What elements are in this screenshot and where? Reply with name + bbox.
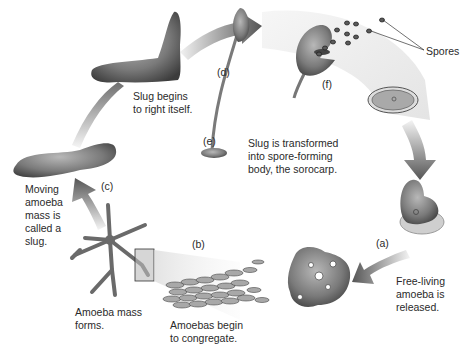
stage-tag-e: (e) bbox=[203, 135, 216, 147]
caption-sorocarp: Slug is transformed into spore-forming b… bbox=[248, 137, 338, 176]
spore-cyst bbox=[368, 87, 418, 113]
slug-righting-shape bbox=[91, 12, 181, 83]
zoom-inset-box bbox=[135, 249, 154, 281]
slug-shape bbox=[13, 143, 116, 177]
arrow-c-to-d bbox=[72, 82, 124, 148]
caption-amoeba-mass: Amoeba mass forms. bbox=[75, 306, 142, 332]
stage-tag-c: (c) bbox=[101, 180, 113, 192]
caption-slug: Moving amoeba mass is called a slug. bbox=[25, 183, 63, 248]
arrow-d-to-e bbox=[180, 12, 262, 60]
stage-tag-b: (b) bbox=[192, 238, 205, 250]
arrow-f-to-a bbox=[402, 120, 436, 180]
amoeba-emerging bbox=[400, 180, 444, 234]
stage-tag-f: (f) bbox=[322, 78, 332, 90]
stage-tag-a: (a) bbox=[376, 237, 389, 249]
slime-mold-life-cycle-diagram: (d) (e) (f) (c) (b) (a) Slug begins to r… bbox=[0, 0, 469, 350]
caption-slug-rights-itself: Slug begins to right itself. bbox=[133, 90, 193, 116]
free-living-amoeba bbox=[288, 247, 350, 307]
spores-callout-label: Spores bbox=[426, 45, 459, 58]
caption-free-living: Free-living amoeba is released. bbox=[396, 275, 445, 314]
stage-tag-d: (d) bbox=[217, 66, 230, 78]
caption-congregate: Amoebas begin to congregate. bbox=[170, 319, 243, 345]
